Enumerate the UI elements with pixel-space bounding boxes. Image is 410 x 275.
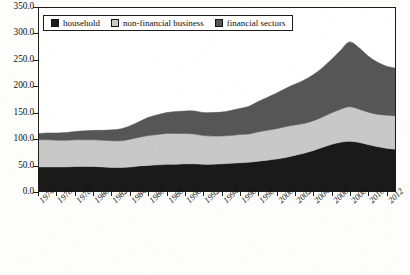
- legend-item-household: household: [51, 18, 100, 28]
- legend-label: financial sectors: [227, 18, 286, 28]
- y-axis-tick-label: 200.0: [0, 80, 34, 90]
- legend-swatch-icon: [215, 19, 223, 27]
- plot-area: [38, 7, 396, 192]
- chart-figure: 0.050.0100.0150.0200.0250.0300.0350.0 19…: [0, 0, 410, 275]
- y-axis-tick-label: 350.0: [0, 1, 34, 11]
- stacked-area-svg: [39, 8, 395, 191]
- legend-item-financial: financial sectors: [215, 18, 286, 28]
- cropped-title-remnant: [175, 0, 250, 5]
- legend-swatch-icon: [111, 19, 119, 27]
- legend-item-nonfinancial: non-financial business: [111, 18, 204, 28]
- y-axis-tick-label: 150.0: [0, 107, 34, 117]
- y-axis-tick-label: 250.0: [0, 54, 34, 64]
- legend-swatch-icon: [51, 19, 59, 27]
- legend-label: non-financial business: [123, 18, 204, 28]
- chart-legend: householdnon-financial businessfinancial…: [43, 15, 293, 31]
- y-axis-tick-label: 300.0: [0, 27, 34, 37]
- legend-label: household: [63, 18, 100, 28]
- y-axis-tick-label: 100.0: [0, 133, 34, 143]
- y-axis-tick-label: 50.0: [0, 160, 34, 170]
- y-axis-tick-label: 0.0: [0, 186, 34, 196]
